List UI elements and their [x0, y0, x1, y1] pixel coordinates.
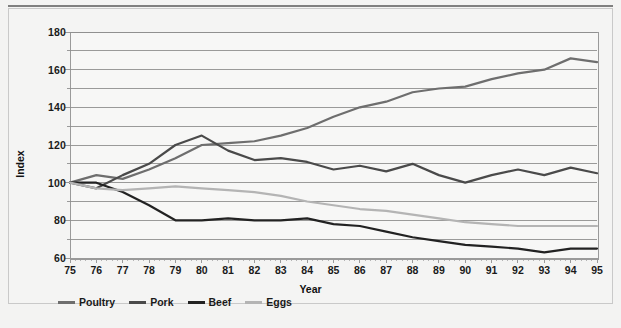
y-tick-label: 60 — [0, 252, 66, 264]
y-tick-label: 80 — [0, 214, 66, 226]
series-line-pork — [70, 136, 597, 189]
y-axis-title: Index — [14, 150, 26, 177]
data-series-group — [70, 58, 597, 252]
legend-item-beef[interactable]: Beef — [188, 296, 232, 308]
legend-item-eggs[interactable]: Eggs — [245, 296, 292, 308]
legend-label: Beef — [209, 296, 232, 308]
y-tick-label: 100 — [0, 177, 66, 189]
chart-legend: PoultryPorkBeefEggs — [58, 296, 292, 308]
legend-item-poultry[interactable]: Poultry — [58, 296, 115, 308]
y-tick-label: 160 — [0, 64, 66, 76]
y-tick-label: 120 — [0, 139, 66, 151]
legend-swatch-icon — [129, 301, 146, 304]
y-tick-label: 180 — [0, 26, 66, 38]
top-divider-rule — [8, 5, 613, 7]
legend-swatch-icon — [245, 301, 262, 304]
y-axis-tick-labels: 1801601401201008060 — [0, 0, 66, 328]
legend-item-pork[interactable]: Pork — [129, 296, 173, 308]
legend-label: Eggs — [266, 296, 292, 308]
chart-figure: 1801601401201008060 Index 75767778798081… — [0, 0, 621, 328]
y-tick-label: 140 — [0, 101, 66, 113]
legend-label: Pork — [150, 296, 173, 308]
x-axis-ticks-group — [70, 258, 597, 263]
x-tick-label: 95 — [582, 264, 612, 276]
series-line-beef — [70, 183, 597, 253]
legend-swatch-icon — [188, 301, 205, 304]
legend-label: Poultry — [79, 296, 115, 308]
legend-swatch-icon — [58, 301, 75, 304]
x-axis-title: Year — [0, 283, 621, 295]
line-chart-plot — [70, 32, 597, 258]
